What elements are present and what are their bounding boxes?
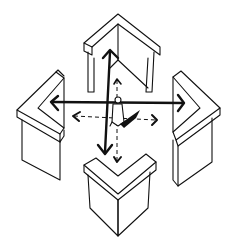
sketch-svg [0,0,237,244]
counter-unit-south [84,154,156,236]
counter-unit-north [84,14,160,92]
diagram-canvas [0,0,237,244]
counter-unit-east [173,71,220,186]
counter-unit-west [17,70,64,180]
